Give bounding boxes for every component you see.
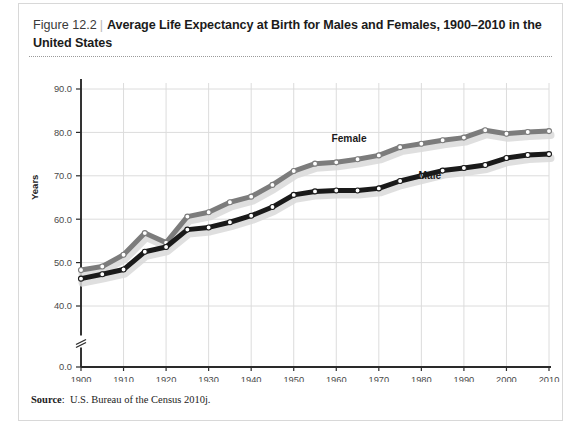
figure-container: Figure 12.2|Average Life Expectancy at B… [18, 3, 563, 421]
data-point-marker [206, 225, 211, 230]
x-tick-label: 1960 [326, 375, 347, 382]
data-point-marker [483, 128, 488, 133]
data-point-marker [79, 276, 84, 281]
x-tick-label: 1900 [71, 375, 92, 382]
y-tick-label: 90.0 [54, 84, 72, 94]
data-series-group [79, 128, 552, 283]
data-point-marker [355, 188, 360, 193]
data-point-marker [142, 249, 147, 254]
data-point-marker [270, 182, 275, 187]
data-point-marker [206, 210, 211, 215]
figure-caption: Figure 12.2|Average Life Expectancy at B… [33, 16, 545, 53]
y-tick-label: 50.0 [54, 258, 72, 268]
data-point-marker [504, 156, 509, 161]
x-tick-label-group: 1900191019201930194019501960197019801990… [71, 367, 560, 382]
y-tick-label: 80.0 [54, 128, 72, 138]
data-point-marker [525, 129, 530, 134]
caption-divider: | [100, 16, 103, 34]
series-label-female: Female [331, 133, 366, 144]
data-point-marker [142, 231, 147, 236]
y-tick-label: 40.0 [54, 301, 72, 311]
x-tick-label: 1950 [283, 375, 304, 382]
data-point-marker [100, 264, 105, 269]
data-point-marker [121, 267, 126, 272]
y-tick-label-group: 0.040.050.060.070.080.090.0 [54, 84, 81, 372]
data-point-marker [313, 161, 318, 166]
data-point-marker [461, 165, 466, 170]
data-point-marker [419, 141, 424, 146]
caption-dotted-rule [29, 56, 552, 57]
x-tick-label: 1980 [411, 375, 432, 382]
source-text: U.S. Bureau of the Census 2010j. [70, 394, 211, 405]
data-point-marker [483, 162, 488, 167]
data-point-marker [185, 214, 190, 219]
x-tick-label: 1970 [368, 375, 389, 382]
y-tick-label: 70.0 [54, 171, 72, 181]
source-label: Source [31, 394, 62, 405]
source-note: Source: U.S. Bureau of the Census 2010j. [31, 394, 210, 405]
data-point-marker [376, 186, 381, 191]
data-point-marker [79, 267, 84, 272]
data-point-marker [547, 129, 552, 134]
data-point-marker [398, 145, 403, 150]
data-point-marker [291, 169, 296, 174]
data-point-marker [270, 205, 275, 210]
data-point-marker [461, 135, 466, 140]
source-separator: : [62, 394, 65, 405]
x-tick-label: 1920 [156, 375, 177, 382]
data-point-marker [355, 157, 360, 162]
data-point-marker [398, 179, 403, 184]
y-tick-label: 60.0 [54, 215, 72, 225]
x-tick-label: 2000 [496, 375, 517, 382]
data-point-marker [227, 220, 232, 225]
x-tick-label: 2010 [539, 375, 560, 382]
data-point-marker [525, 152, 530, 157]
data-point-marker [121, 252, 126, 257]
life-expectancy-line-chart: 0.040.050.060.070.080.090.0 190019101920… [19, 62, 564, 382]
x-tick-label: 1910 [113, 375, 134, 382]
data-point-marker [164, 244, 169, 249]
data-point-marker [313, 189, 318, 194]
data-point-marker [504, 131, 509, 136]
data-point-marker [440, 138, 445, 143]
data-point-marker [376, 153, 381, 158]
y-tick-label: 0.0 [59, 362, 72, 372]
data-point-marker [249, 213, 254, 218]
data-point-marker [547, 152, 552, 157]
x-tick-label: 1940 [241, 375, 262, 382]
figure-number: Figure 12.2 [33, 18, 97, 32]
data-point-marker [334, 188, 339, 193]
data-point-marker [334, 160, 339, 165]
gridline-group [81, 83, 549, 367]
data-point-marker [185, 227, 190, 232]
data-point-marker [100, 272, 105, 277]
series-label-male: Male [419, 170, 442, 181]
axis-lines [76, 79, 551, 367]
data-point-marker [249, 194, 254, 199]
data-point-marker [291, 192, 296, 197]
chart-plot-area: 0.040.050.060.070.080.090.0 190019101920… [19, 62, 564, 382]
data-point-marker [227, 200, 232, 205]
series-shadow-male [83, 158, 551, 283]
page-title: Average Life Expectancy at Birth for Mal… [33, 18, 542, 50]
x-tick-label: 1990 [454, 375, 475, 382]
x-tick-label: 1930 [198, 375, 219, 382]
